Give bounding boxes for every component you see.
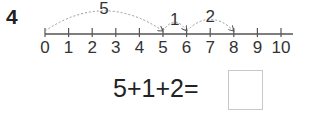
jump-label: 1 <box>170 10 179 29</box>
equation: 5+1+2= <box>113 74 199 103</box>
tick-label: 0 <box>40 38 49 57</box>
tick-label: 4 <box>135 38 144 57</box>
jump-label: 2 <box>205 7 214 26</box>
tick-label: 8 <box>229 38 238 57</box>
answer-box[interactable] <box>228 70 263 110</box>
tick-label: 5 <box>158 38 167 57</box>
tick-label: 3 <box>111 38 120 57</box>
jump-label: 5 <box>99 0 108 18</box>
tick-label: 9 <box>253 38 262 57</box>
tick-label: 1 <box>64 38 73 57</box>
tick-label: 6 <box>182 38 191 57</box>
tick-label: 2 <box>87 38 96 57</box>
tick-label: 7 <box>205 38 214 57</box>
tick-label: 10 <box>272 38 291 57</box>
